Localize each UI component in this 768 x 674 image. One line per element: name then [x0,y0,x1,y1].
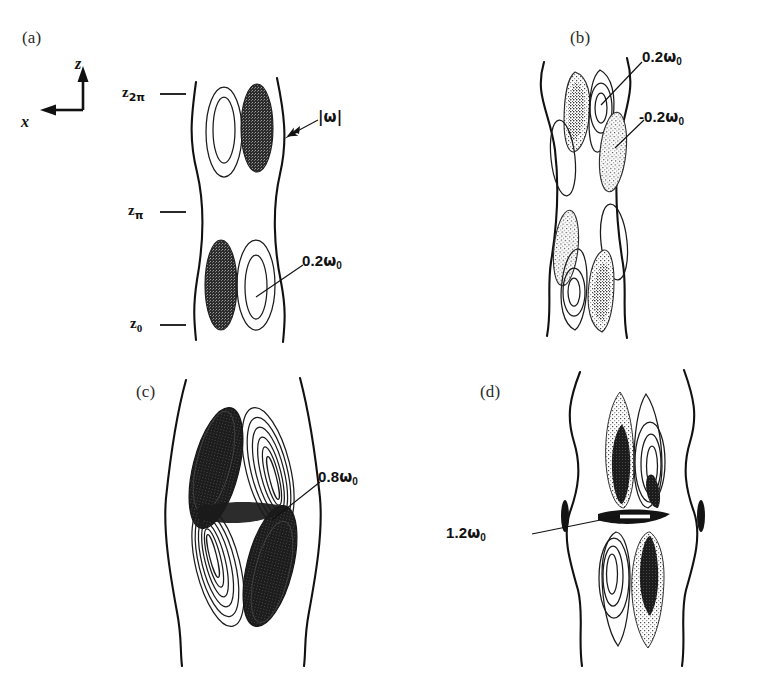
contour-lobe-upper-right [241,84,273,172]
contour-lobe-lower-left-d [599,532,630,646]
leader-contour-1p2-d [532,516,620,534]
vorticity-contour-figure: (a) z x [0,0,768,674]
annotation-contour-0p2-a: 0.2ω0 [302,252,342,271]
z-tick-2pi: z2π [122,84,145,104]
waist-band-d [598,510,670,524]
panel-c: (c) [0,350,384,674]
panel-d: (d) [384,350,768,674]
contour-lobe-lower-right-d [632,532,664,648]
panel-c-graphics [0,350,384,674]
contour-lobe-upper-left-d [606,392,634,508]
z-tick-pi: zπ [128,202,143,222]
annotation-vorticity-magnitude: |ω| [318,108,342,126]
panel-d-graphics [384,350,768,674]
annotation-contour-0p8-c: 0.8ω0 [318,468,358,487]
contour-lobe-upper-left [206,87,242,177]
panel-b-graphics [384,0,768,350]
panel-b: (b) [384,0,768,350]
z-tick-0: z0 [130,315,142,334]
z-axis-ticks [160,94,186,325]
contour-lobe-upper-left-inner [564,72,590,152]
panel-a-graphics [0,0,384,350]
leader-vorticity-magnitude [284,120,318,139]
contour-lobe-lower-right [237,240,275,330]
contour-lobe-lower-left [205,240,237,330]
contour-lobe-lower-right-inner [588,250,614,332]
annotation-contour-1p2-d: 1.2ω0 [446,524,486,543]
axis-indicator [40,66,89,116]
contour-fill-upper-right-d [646,474,660,508]
annotation-contour-pos-0p2-b: 0.2ω0 [642,48,682,67]
annotation-contour-neg-0p2-b: -0.2ω0 [639,108,684,127]
panel-a: (a) z x [0,0,384,350]
leader-contour-pos-0p2-b [601,62,642,105]
